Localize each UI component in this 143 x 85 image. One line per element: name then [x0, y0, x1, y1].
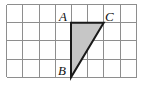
figure-canvas: A C B — [0, 0, 143, 85]
vertex-label-c: C — [105, 9, 114, 24]
grid-figure: A C B — [0, 0, 143, 85]
vertex-label-b: B — [58, 63, 66, 78]
vertex-label-a: A — [58, 9, 67, 24]
